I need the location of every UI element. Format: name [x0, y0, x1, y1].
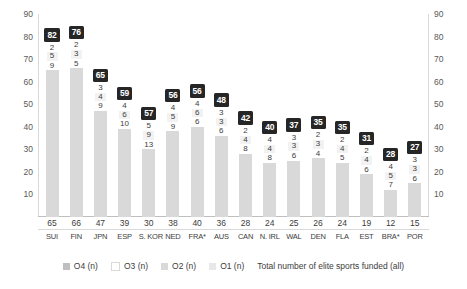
legend-item[interactable]: O2 (n) [161, 261, 196, 271]
base-bar[interactable] [287, 161, 300, 217]
x-axis-label: JPN [90, 233, 110, 241]
x-axis-label: NED [163, 233, 183, 241]
bar-column[interactable]: 27336 [405, 14, 425, 217]
x-axis-label: FLA [332, 233, 352, 241]
segment-label-o2: 3 [71, 50, 82, 59]
bar-column[interactable]: 35234 [308, 14, 328, 217]
segment-label-o2: 5 [167, 113, 178, 122]
x-axis-label: N. IRL [260, 233, 280, 241]
segment-label-o1: 9 [95, 102, 106, 111]
stack-label-group: 42248 [236, 111, 256, 153]
y-tick-right-50: 50 [434, 100, 443, 109]
bar-column[interactable]: 65349 [90, 14, 110, 217]
legend-label: O3 (n) [124, 261, 148, 271]
legend-item[interactable]: O4 (n) [63, 261, 98, 271]
base-bar[interactable] [215, 136, 228, 217]
x-axis-label: CAN [236, 233, 256, 241]
stack-label-group: 594610 [115, 87, 135, 129]
bar-column[interactable]: 31246 [356, 14, 376, 217]
base-bar[interactable] [166, 131, 179, 217]
stack-label-group: 28457 [381, 148, 401, 190]
bar-column[interactable]: 40448 [260, 14, 280, 217]
y-tick-right-20: 20 [434, 168, 443, 177]
base-bar[interactable] [46, 70, 59, 217]
base-bar[interactable] [336, 163, 349, 217]
stack-label-group: 35234 [308, 116, 328, 158]
segment-label-o1: 8 [264, 154, 275, 163]
total-funded-value: 12 [381, 219, 401, 228]
total-badge: 27 [407, 141, 422, 155]
x-axis-label: BRA* [381, 233, 401, 241]
base-bar[interactable] [239, 154, 252, 217]
total-funded-value: 15 [405, 219, 425, 228]
segment-label-o2: 4 [95, 93, 106, 102]
bar-column[interactable]: 56459 [163, 14, 183, 217]
total-badge: 28 [383, 148, 398, 162]
total-badge: 40 [262, 121, 277, 135]
total-badge: 48 [214, 93, 229, 107]
y-tick-left-40: 40 [24, 123, 33, 132]
total-funded-value: 28 [236, 219, 256, 228]
x-axis-label: DEN [308, 233, 328, 241]
x-axis-label: SUI [42, 233, 62, 241]
bar-column[interactable]: 56466 [187, 14, 207, 217]
base-bar[interactable] [312, 158, 325, 217]
y-tick-left-80: 80 [24, 33, 33, 42]
total-funded-value: 24 [332, 219, 352, 228]
y-tick-left-50: 50 [24, 100, 33, 109]
base-bar[interactable] [384, 190, 397, 217]
base-bar[interactable] [408, 183, 421, 217]
y-tick-left-90: 90 [24, 10, 33, 19]
total-badge: 59 [117, 87, 132, 101]
segment-label-o1: 9 [167, 123, 178, 132]
segment-label-o2: 4 [240, 136, 251, 145]
bar-column[interactable]: 594610 [115, 14, 135, 217]
segment-label-o2: 9 [143, 131, 154, 140]
total-badge: 35 [335, 121, 350, 135]
total-badge: 57 [141, 107, 156, 121]
bar-column[interactable]: 82259 [42, 14, 62, 217]
legend-label: O1 (n) [220, 261, 244, 271]
stack-label-group: 65349 [90, 69, 110, 111]
x-axis-label: ESP [115, 233, 135, 241]
base-bar[interactable] [263, 163, 276, 217]
base-bar[interactable] [70, 68, 83, 217]
total-badge: 35 [311, 116, 326, 130]
segment-label-o1: 9 [47, 62, 58, 71]
total-funded-value: 24 [260, 219, 280, 228]
bar-column[interactable]: 37336 [284, 14, 304, 217]
stack-label-group: 40448 [260, 121, 280, 163]
total-badge: 31 [359, 132, 374, 146]
segment-label-o2: 4 [264, 145, 275, 154]
bar-column[interactable]: 42248 [236, 14, 256, 217]
legend-swatch-icon [161, 263, 168, 270]
x-axis-label: FIN [66, 233, 86, 241]
base-bar[interactable] [191, 127, 204, 217]
legend-label: O2 (n) [172, 261, 196, 271]
x-axis-label: EST [356, 233, 376, 241]
base-bar[interactable] [142, 149, 155, 217]
total-badge: 42 [238, 111, 253, 125]
base-bar[interactable] [360, 174, 373, 217]
bar-column[interactable]: 575913 [139, 14, 159, 217]
bar-column[interactable]: 48336 [211, 14, 231, 217]
bar-column[interactable]: 28457 [381, 14, 401, 217]
base-bar[interactable] [94, 111, 107, 217]
stack-label-group: 37336 [284, 118, 304, 160]
bar-column[interactable]: 35245 [332, 14, 352, 217]
x-axis-label: FRA* [187, 233, 207, 241]
legend-item[interactable]: O1 (n) [209, 261, 244, 271]
legend-swatch-icon [63, 263, 70, 270]
total-funded-value: 65 [42, 219, 62, 228]
total-badge: 76 [69, 26, 84, 40]
base-bar[interactable] [118, 129, 131, 217]
legend-item[interactable]: O3 (n) [111, 261, 148, 271]
stack-label-group: 82259 [42, 28, 62, 70]
legend-label: O4 (n) [74, 261, 98, 271]
x-axis-label: AUS [211, 233, 231, 241]
segment-label-o1: 4 [313, 150, 324, 159]
total-funded-value: 38 [163, 219, 183, 228]
chart-legend: O4 (n)O3 (n)O2 (n)O1 (n)Total number of … [0, 261, 467, 271]
bar-column[interactable]: 76235 [66, 14, 86, 217]
y-tick-right-30: 30 [434, 145, 443, 154]
